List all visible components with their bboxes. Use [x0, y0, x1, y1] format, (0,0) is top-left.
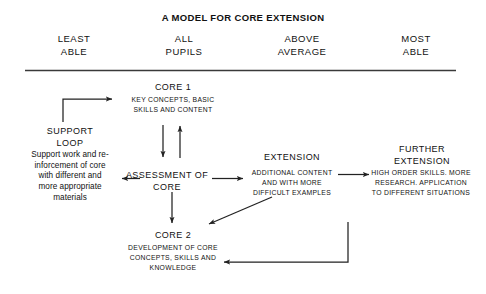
node-core2-body: DEVELOPMENT OF CORE CONCEPTS, SKILLS AND… [104, 243, 242, 273]
page-title: A MODEL FOR CORE EXTENSION [0, 12, 486, 23]
node-extension-body: ADDITIONAL CONTENT AND WITH MORE DIFFICU… [238, 168, 346, 198]
node-assessment-title: ASSESSMENT OF CORE [118, 170, 216, 193]
node-core1-body: KEY CONCEPTS, BASIC SKILLS AND CONTENT [100, 95, 246, 115]
node-further-extension-title: FURTHER EXTENSION [374, 144, 470, 167]
node-further-extension-body: HIGH ORDER SKILLS. MORE RESEARCH. APPLIC… [358, 168, 484, 198]
diagram-canvas: A MODEL FOR CORE EXTENSION LEAST ABLE AL… [0, 0, 486, 294]
node-support-loop-body: Support work and re- inforcement of core… [8, 150, 132, 203]
node-core2-title: CORE 2 [116, 230, 230, 242]
column-header-all-pupils: ALL PUPILS [136, 33, 232, 59]
node-core1-title: CORE 1 [108, 82, 238, 94]
connector-extension-to-core2 [209, 197, 272, 224]
column-header-above-average: ABOVE AVERAGE [248, 33, 356, 59]
connector-further-extension-to-core2 [224, 222, 348, 262]
column-header-most-able: MOST ABLE [368, 33, 464, 59]
column-header-least-able: LEAST ABLE [26, 33, 122, 59]
node-extension-title: EXTENSION [246, 152, 338, 164]
node-support-loop-title: SUPPORT LOOP [14, 126, 126, 149]
